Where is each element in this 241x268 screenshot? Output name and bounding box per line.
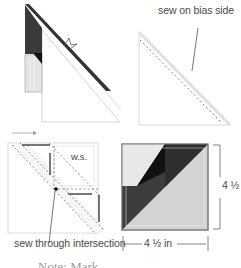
step1-figure: [25, 4, 121, 122]
label-width-dimension: 4 ½ in: [144, 237, 172, 249]
diagram-canvas: [0, 0, 241, 268]
note-text-partial: Note: Mark ...: [38, 259, 111, 268]
label-sew-through-intersection: sew through intersection: [14, 237, 125, 249]
label-height-dimension: 4 ½ in: [222, 179, 241, 191]
arrow-right-icon: [12, 131, 37, 135]
label-sew-on-bias-side: sew on bias side: [158, 4, 234, 16]
step3-figure: [8, 143, 104, 243]
step4-figure: [122, 144, 220, 251]
step2-figure: [139, 28, 230, 125]
label-wrong-side: w.s.: [71, 151, 87, 162]
